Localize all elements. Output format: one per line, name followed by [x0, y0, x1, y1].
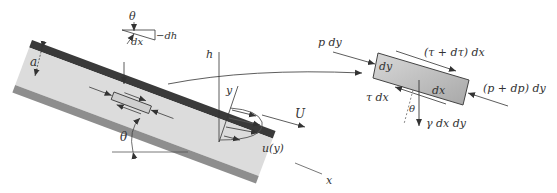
element-theta-label: θ	[409, 103, 415, 114]
surface-velocity-label: U	[295, 107, 306, 121]
weight-label: γ dx dy	[426, 117, 467, 130]
y-axis-label: y	[225, 84, 233, 97]
inset-dh-label: −dh	[156, 30, 177, 41]
inset-theta-label: θ	[129, 10, 136, 23]
x-axis	[295, 163, 322, 174]
gap-label: a	[30, 55, 37, 69]
slope-inset: θ dx −dh	[122, 10, 177, 47]
inclined-channel	[12, 40, 275, 184]
element-dx-label: dx	[432, 84, 446, 97]
flow-diagram: a θ θ dx −dh h y x U u(y) dy dx p dy (p	[0, 0, 557, 193]
velocity-profile-label: u(y)	[262, 142, 284, 155]
element-dy-label: dy	[379, 60, 393, 73]
top-shear-label: (τ + dτ) dx	[424, 46, 486, 59]
callout-leader	[168, 72, 362, 84]
bottom-shear-label: τ dx	[366, 91, 390, 104]
left-pressure-arrow	[333, 52, 375, 64]
x-axis-label: x	[326, 174, 333, 187]
free-body-element: dy dx p dy (p + dp) dy (τ + dτ) dx τ dx …	[318, 36, 546, 130]
diagram-canvas: a θ θ dx −dh h y x U u(y) dy dx p dy (p	[0, 0, 557, 193]
right-pressure-label: (p + dp) dy	[483, 82, 546, 95]
left-pressure-label: p dy	[318, 36, 343, 49]
inset-dx-label: dx	[131, 36, 143, 47]
h-axis-label: h	[206, 48, 213, 61]
angle-label: θ	[120, 130, 128, 144]
